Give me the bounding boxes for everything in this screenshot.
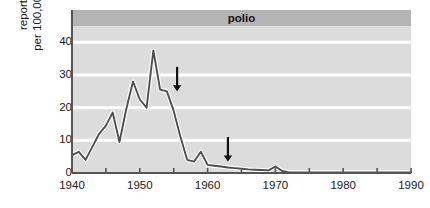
polio-incidence-chart: reported cases per 100,000 population 01…: [0, 0, 430, 208]
plot-area: polio: [0, 0, 430, 208]
chart-title: polio: [228, 12, 255, 24]
plot-background: [72, 26, 411, 173]
